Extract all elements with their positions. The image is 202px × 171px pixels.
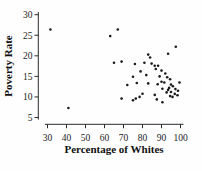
data-point: [167, 53, 170, 56]
data-point: [126, 84, 129, 87]
data-point: [166, 76, 169, 79]
x-tick-label: 90: [157, 133, 167, 143]
data-point: [177, 90, 180, 93]
data-point: [155, 68, 158, 71]
data-point: [141, 92, 144, 95]
y-tick-label: 20: [23, 51, 33, 61]
data-point: [132, 99, 135, 102]
data-point: [147, 53, 150, 56]
poverty-vs-whites-scatter-chart: 5101520253030405060708090100 Percentage …: [0, 0, 202, 171]
data-point: [117, 28, 120, 31]
scatter-plot-figure: 5101520253030405060708090100 Percentage …: [0, 0, 202, 171]
data-point: [174, 88, 177, 91]
data-point: [120, 97, 123, 100]
data-point: [167, 89, 170, 92]
data-point: [67, 107, 70, 110]
data-point: [147, 82, 150, 85]
y-tick-label: 10: [23, 92, 33, 102]
data-point: [113, 62, 116, 65]
x-tick-label: 80: [138, 133, 148, 143]
data-point: [154, 94, 157, 97]
data-point: [161, 101, 164, 104]
y-tick-label: 30: [23, 10, 33, 20]
data-point: [156, 83, 159, 86]
data-point: [143, 62, 146, 65]
data-point: [149, 56, 152, 59]
data-point: [172, 85, 175, 88]
data-point: [109, 35, 112, 38]
data-point: [139, 70, 142, 73]
data-point: [145, 74, 148, 77]
data-point: [174, 93, 177, 96]
x-axis-title: Percentage of Whites: [64, 143, 164, 155]
data-point: [158, 75, 161, 78]
data-point: [170, 91, 173, 94]
data-point: [163, 81, 166, 84]
data-point: [161, 87, 164, 90]
data-point: [164, 72, 167, 75]
data-point: [136, 82, 139, 85]
data-point: [157, 64, 160, 67]
data-point: [165, 91, 168, 94]
data-point: [160, 80, 163, 83]
data-point: [156, 98, 159, 101]
data-point: [169, 95, 172, 98]
data-point: [178, 81, 181, 84]
y-tick-label: 5: [28, 113, 33, 123]
y-axis-title: Poverty Rate: [2, 35, 14, 97]
y-tick-label: 15: [23, 72, 33, 82]
data-point: [169, 78, 172, 81]
x-tick-label: 100: [173, 133, 188, 143]
x-tick-label: 30: [43, 133, 53, 143]
x-tick-label: 50: [81, 133, 91, 143]
data-point: [160, 69, 163, 72]
data-point: [49, 28, 52, 31]
x-tick-label: 40: [62, 133, 72, 143]
data-point: [138, 96, 141, 99]
data-point: [134, 63, 137, 66]
y-tick-label: 25: [23, 31, 33, 41]
data-point: [176, 94, 179, 97]
data-point: [120, 60, 123, 63]
data-point: [171, 96, 174, 99]
data-point: [135, 97, 138, 100]
x-tick-label: 60: [100, 133, 110, 143]
data-point: [175, 46, 178, 49]
data-point: [150, 62, 153, 65]
data-point: [153, 64, 156, 67]
x-tick-label: 70: [119, 133, 129, 143]
data-point: [132, 76, 135, 79]
